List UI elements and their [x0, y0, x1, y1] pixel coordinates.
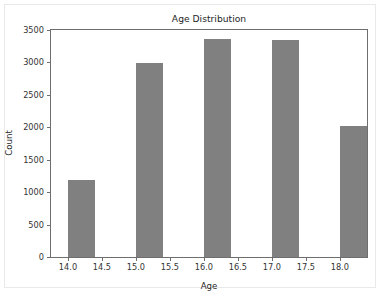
x-axis-tick-label: 16.5: [229, 263, 247, 271]
x-axis-tick: [238, 257, 239, 261]
chart-title: Age Distribution: [50, 13, 368, 24]
y-axis-tick: [47, 62, 51, 63]
x-axis-tick: [102, 257, 103, 261]
y-axis-label: Count: [4, 130, 14, 156]
chart-figure: Age Distribution Count 05001000150020002…: [0, 0, 380, 298]
x-axis-tick-label: 15.0: [127, 263, 145, 271]
plot-axes: 050010001500200025003000350014.014.515.0…: [50, 29, 368, 258]
y-axis-tick: [47, 30, 51, 31]
x-axis-tick-label: 14.5: [93, 263, 111, 271]
bar: [204, 39, 231, 257]
plot-area: [51, 30, 367, 257]
x-axis-tick: [136, 257, 137, 261]
x-axis-tick-label: 14.0: [59, 263, 77, 271]
y-axis-tick-label: 1500: [23, 156, 44, 164]
x-axis-tick: [340, 257, 341, 261]
y-axis-tick-label: 2500: [23, 91, 44, 99]
bar: [136, 63, 163, 257]
x-axis-tick: [306, 257, 307, 261]
x-axis-tick-label: 16.0: [195, 263, 213, 271]
bar: [68, 180, 95, 257]
y-axis-tick: [47, 192, 51, 193]
y-axis-tick-label: 0: [39, 253, 44, 261]
x-axis-tick-label: 17.5: [297, 263, 315, 271]
x-axis-tick-label: 17.0: [263, 263, 281, 271]
x-axis-tick: [68, 257, 69, 261]
bar: [272, 40, 299, 257]
bar: [340, 126, 367, 257]
x-axis-label: Age: [50, 281, 368, 291]
y-axis-tick-label: 1000: [23, 188, 44, 196]
x-axis-tick-label: 15.5: [161, 263, 179, 271]
x-axis-tick: [170, 257, 171, 261]
y-axis-tick: [47, 225, 51, 226]
y-axis-tick-label: 3500: [23, 26, 44, 34]
y-axis-tick: [47, 160, 51, 161]
y-axis-tick: [47, 257, 51, 258]
x-axis-tick: [272, 257, 273, 261]
y-axis-tick: [47, 95, 51, 96]
y-axis-tick-label: 2000: [23, 123, 44, 131]
y-axis-tick-label: 500: [28, 220, 44, 228]
y-axis-tick-label: 3000: [23, 58, 44, 66]
x-axis-tick-label: 18.0: [331, 263, 349, 271]
x-axis-tick: [204, 257, 205, 261]
y-axis-tick: [47, 127, 51, 128]
